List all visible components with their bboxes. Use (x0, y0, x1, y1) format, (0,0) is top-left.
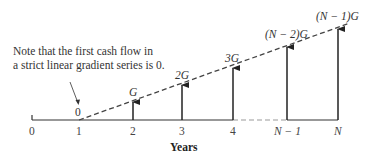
label-period-4: 3G (225, 52, 239, 64)
label-period-n-minus-1: (N − 2)G (265, 28, 308, 40)
tick-n: N (334, 125, 342, 137)
label-period-3: 2G (175, 69, 189, 81)
axis-label: Years (170, 141, 197, 153)
cash-flow-arrows (133, 29, 338, 120)
tick-0: 0 (29, 125, 35, 137)
tick-4: 4 (230, 125, 236, 137)
note-text: Note that the first cash flow in a stric… (13, 44, 165, 72)
note-pointer (70, 82, 78, 103)
gradient-cash-flow-diagram (0, 0, 374, 163)
tick-3: 3 (179, 125, 185, 137)
tick-1: 1 (76, 125, 82, 137)
label-period-n: (N − 1)G (316, 10, 359, 22)
tick-2: 2 (130, 125, 136, 137)
label-period-2: G (129, 86, 137, 98)
tick-n-minus-1: N − 1 (274, 125, 301, 137)
label-period-1: 0 (75, 106, 81, 118)
